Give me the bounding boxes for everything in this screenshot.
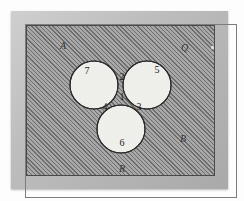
figure-scene: A Q B R 7 2 5 4 1 3 6 [0,0,244,201]
region-value-left-right: 2 [120,72,125,82]
region-value-left-bottom: 4 [103,102,108,112]
set-label-A: A [60,41,66,51]
region-value-center: 1 [120,92,125,102]
set-label-R: R [119,164,125,174]
set-label-B: B [180,134,186,144]
set-label-Q: Q [181,43,188,53]
region-value-right-only: 5 [155,65,160,75]
region-value-left-only: 7 [85,66,90,76]
region-value-right-bottom: 3 [137,102,142,112]
region-value-bottom-only: 6 [120,138,125,148]
